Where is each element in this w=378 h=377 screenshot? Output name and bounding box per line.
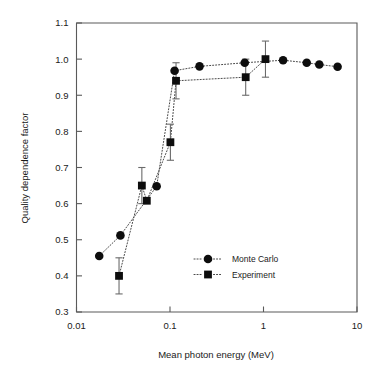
x-tick-label-0.1: 0.1	[163, 320, 176, 331]
x-axis-title: Mean photon energy (MeV)	[158, 349, 274, 360]
marker-circle-monte-carlo	[315, 60, 324, 69]
legend-label-monte-carlo: Monte Carlo	[232, 254, 279, 264]
y-tick-label-0.7: 0.7	[55, 162, 68, 173]
marker-circle-monte-carlo	[240, 58, 249, 67]
x-tick-label-10: 10	[352, 320, 363, 331]
marker-square-experiment	[262, 55, 270, 63]
marker-circle-monte-carlo	[195, 62, 204, 71]
marker-circle-monte-carlo	[170, 66, 179, 75]
y-tick-label-0.6: 0.6	[55, 198, 68, 209]
marker-circle-monte-carlo	[116, 231, 125, 240]
y-tick-label-0.5: 0.5	[55, 234, 68, 245]
marker-square-experiment	[143, 197, 151, 205]
marker-circle-monte-carlo	[302, 58, 311, 67]
y-tick-label-0.3: 0.3	[55, 306, 68, 317]
marker-square-experiment	[172, 77, 180, 85]
x-tick-label-0.01: 0.01	[67, 320, 86, 331]
legend-marker-square	[204, 271, 212, 279]
quality-dependence-factor-chart: 0.010.1110 0.30.40.50.60.70.80.91.01.1 M…	[0, 0, 378, 377]
marker-square-experiment	[167, 138, 175, 146]
marker-circle-monte-carlo	[333, 62, 342, 71]
marker-square-experiment	[115, 272, 123, 280]
y-tick-label-0.8: 0.8	[55, 126, 68, 137]
legend-label-experiment: Experiment	[232, 270, 276, 280]
x-tick-label-1: 1	[261, 320, 266, 331]
y-tick-label-0.4: 0.4	[55, 270, 68, 281]
y-tick-label-1.0: 1.0	[55, 54, 68, 65]
y-tick-label-1.1: 1.1	[55, 17, 68, 28]
marker-circle-monte-carlo	[152, 182, 161, 191]
y-axis-tick-labels: 0.30.40.50.60.70.80.91.01.1	[55, 17, 68, 317]
marker-square-experiment	[242, 73, 250, 81]
figure-container: 0.010.1110 0.30.40.50.60.70.80.91.01.1 M…	[0, 0, 378, 377]
legend-marker-circle	[204, 255, 213, 264]
marker-circle-monte-carlo	[279, 56, 288, 65]
marker-square-experiment	[138, 182, 146, 190]
y-tick-label-0.9: 0.9	[55, 90, 68, 101]
y-axis-title: Quality dependence factor	[19, 113, 30, 224]
marker-circle-monte-carlo	[95, 252, 104, 261]
